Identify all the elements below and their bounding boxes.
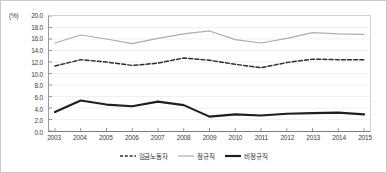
y-tick-label: 0.0 xyxy=(35,129,43,136)
legend-label: 정규직 xyxy=(197,151,214,161)
y-tick-label: 2.0 xyxy=(35,117,43,124)
y-tick-label: 10.0 xyxy=(31,70,43,77)
x-tick-label: 2012 xyxy=(280,134,294,141)
y-tick-label: 16.0 xyxy=(31,35,43,42)
legend-item[interactable]: 비정규직 xyxy=(225,151,267,161)
chart-legend: 임금노동자정규직비정규직 xyxy=(1,151,386,161)
x-tick-label: 2014 xyxy=(332,134,346,141)
legend-swatch-icon xyxy=(120,153,136,159)
x-tick-label: 2006 xyxy=(125,134,139,141)
series-line xyxy=(55,58,364,68)
y-tick-label: 8.0 xyxy=(35,82,43,89)
y-tick-label: 12.0 xyxy=(31,58,43,65)
legend-item[interactable]: 정규직 xyxy=(178,151,214,161)
series-line xyxy=(55,31,364,44)
y-tick-label: 20.0 xyxy=(31,12,43,19)
x-tick-label: 2015 xyxy=(358,134,372,141)
x-tick-label: 2011 xyxy=(255,134,268,141)
y-tick-label: 14.0 xyxy=(31,47,43,54)
y-tick-label: 4.0 xyxy=(35,105,43,112)
x-tick-label: 2008 xyxy=(177,134,191,141)
x-tick-label: 2004 xyxy=(73,134,87,141)
y-tick-label: 18.0 xyxy=(31,23,43,30)
x-tick-label: 2003 xyxy=(47,134,61,141)
x-axis-tick-labels: 2003200420052006200720082009201020112012… xyxy=(48,134,371,148)
x-tick-label: 2005 xyxy=(99,134,113,141)
legend-swatch-icon xyxy=(225,153,241,159)
x-tick-label: 2010 xyxy=(229,134,243,141)
legend-item[interactable]: 임금노동자 xyxy=(120,151,168,161)
series-line xyxy=(55,101,364,117)
y-axis-tick-labels: 20.018.016.014.012.010.08.06.04.02.00.0 xyxy=(1,1,46,173)
plot-area xyxy=(48,15,371,132)
x-tick-label: 2009 xyxy=(203,134,217,141)
y-tick-label: 6.0 xyxy=(35,93,43,100)
legend-label: 임금노동자 xyxy=(139,151,168,161)
series-canvas xyxy=(49,16,370,131)
x-tick-label: 2013 xyxy=(306,134,320,141)
legend-label: 비정규직 xyxy=(244,151,267,161)
x-tick-label: 2007 xyxy=(151,134,165,141)
chart-figure: (%) 20.018.016.014.012.010.08.06.04.02.0… xyxy=(0,0,387,173)
legend-swatch-icon xyxy=(178,153,194,159)
